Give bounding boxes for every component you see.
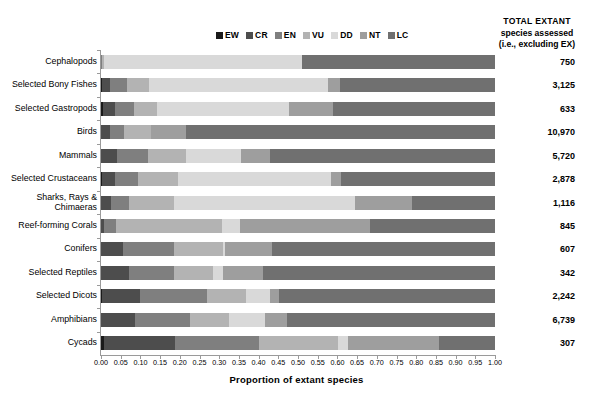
- bar-row[interactable]: [101, 172, 495, 186]
- category-axis-labels: CephalopodsSelected Bony FishesSelected …: [0, 50, 97, 355]
- stacked-bar: [101, 55, 495, 69]
- legend-item-lc[interactable]: LC: [388, 31, 409, 40]
- legend-label: NT: [369, 31, 381, 40]
- bar-segment-lc: [186, 125, 495, 139]
- bar-segment-vu: [259, 336, 338, 350]
- category-label-reef-forming-corals: Reef-forming Corals: [1, 220, 97, 231]
- bar-segment-vu: [190, 313, 229, 327]
- totals-header-line3: (i.e., excluding EX): [483, 39, 591, 51]
- bar-segment-cr: [102, 78, 111, 92]
- total-value: 607: [497, 242, 575, 256]
- legend-label: DD: [340, 31, 353, 40]
- category-label-birds: Birds: [1, 126, 97, 137]
- bar-segment-vu: [138, 172, 177, 186]
- bar-segment-lc: [340, 78, 495, 92]
- bar-segment-cr: [101, 125, 110, 139]
- bar-row[interactable]: [101, 336, 495, 350]
- stacked-bar: [101, 125, 495, 139]
- y-axis-tick: [97, 261, 101, 262]
- bar-row[interactable]: [101, 78, 495, 92]
- total-value: 307: [497, 336, 575, 350]
- legend-swatch-cr-icon: [246, 32, 253, 39]
- bar-row[interactable]: [101, 219, 495, 233]
- bar-row[interactable]: [101, 102, 495, 116]
- legend-label: CR: [255, 31, 268, 40]
- bar-segment-en: [135, 313, 190, 327]
- y-axis-tick: [97, 50, 101, 51]
- stacked-bar: [101, 313, 495, 327]
- y-axis-tick: [97, 120, 101, 121]
- bar-segment-dd: [178, 172, 332, 186]
- bar-segment-en: [129, 266, 174, 280]
- total-value: 2,878: [497, 172, 575, 186]
- bar-segment-cr: [102, 172, 115, 186]
- legend-item-vu[interactable]: VU: [303, 31, 324, 40]
- bar-segment-lc: [302, 55, 495, 69]
- stacked-bar: [101, 102, 495, 116]
- total-value: 5,720: [497, 149, 575, 163]
- bar-segment-en: [117, 149, 149, 163]
- x-axis-title: Proportion of extant species: [0, 374, 593, 385]
- bar-segment-dd: [246, 289, 270, 303]
- y-axis-tick: [97, 238, 101, 239]
- bar-segment-en: [115, 102, 135, 116]
- legend-swatch-dd-icon: [331, 32, 338, 39]
- bar-segment-vu: [207, 289, 246, 303]
- bar-segment-vu: [127, 78, 149, 92]
- legend-item-ew[interactable]: EW: [216, 31, 239, 40]
- bar-row[interactable]: [101, 266, 495, 280]
- y-axis-tick: [97, 97, 101, 98]
- category-label-amphibians: Amphibians: [1, 314, 97, 325]
- stacked-bar: [101, 172, 495, 186]
- bar-segment-nt: [289, 102, 332, 116]
- stacked-bar: [101, 336, 495, 350]
- bar-row[interactable]: [101, 289, 495, 303]
- category-label-conifers: Conifers: [1, 243, 97, 254]
- bar-row[interactable]: [101, 149, 495, 163]
- bar-segment-vu: [129, 196, 174, 210]
- legend-label: EW: [225, 31, 239, 40]
- legend-swatch-lc-icon: [388, 32, 395, 39]
- y-axis-tick: [97, 191, 101, 192]
- category-label-selected-gastropods: Selected Gastropods: [1, 103, 97, 114]
- legend-swatch-nt-icon: [360, 32, 367, 39]
- bar-segment-lc: [370, 219, 495, 233]
- stacked-bar: [101, 149, 495, 163]
- bar-segment-lc: [279, 289, 495, 303]
- y-axis-tick: [97, 167, 101, 168]
- bar-segment-vu: [124, 125, 151, 139]
- total-value: 633: [497, 102, 575, 116]
- bar-segment-lc: [270, 149, 495, 163]
- bar-segment-cr: [101, 149, 116, 163]
- bar-segment-dd: [104, 55, 302, 69]
- bar-row[interactable]: [101, 125, 495, 139]
- category-label-mammals: Mammals: [1, 150, 97, 161]
- bar-segment-lc: [287, 313, 495, 327]
- total-value: 3,125: [497, 78, 575, 92]
- total-value: 750: [497, 55, 575, 69]
- legend-item-dd[interactable]: DD: [331, 31, 353, 40]
- bar-segment-dd: [229, 313, 264, 327]
- bar-segment-en: [175, 336, 260, 350]
- bar-segment-dd: [174, 196, 355, 210]
- bar-segment-cr: [101, 266, 129, 280]
- bar-segment-dd: [338, 336, 348, 350]
- legend-label: EN: [284, 31, 296, 40]
- bar-row[interactable]: [101, 55, 495, 69]
- legend-item-nt[interactable]: NT: [360, 31, 381, 40]
- stacked-bar: [101, 78, 495, 92]
- bar-segment-cr: [101, 313, 134, 327]
- bar-segment-cr: [104, 336, 175, 350]
- bar-segment-dd: [149, 78, 328, 92]
- stacked-bar: [101, 266, 495, 280]
- legend-item-en[interactable]: EN: [275, 31, 296, 40]
- total-value: 845: [497, 219, 575, 233]
- x-axis-tick-label: 1.00: [480, 358, 510, 368]
- bar-segment-vu: [116, 219, 222, 233]
- totals-column-header: TOTAL EXTANT species assessed (i.e., exc…: [483, 16, 591, 51]
- stacked-bar: [101, 289, 495, 303]
- legend-item-cr[interactable]: CR: [246, 31, 268, 40]
- bar-row[interactable]: [101, 313, 495, 327]
- bar-row[interactable]: [101, 196, 495, 210]
- bar-row[interactable]: [101, 242, 495, 256]
